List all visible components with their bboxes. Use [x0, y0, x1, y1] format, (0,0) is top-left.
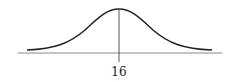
- mean-label: 16: [111, 66, 126, 78]
- normal-curve-figure: 16: [0, 0, 225, 82]
